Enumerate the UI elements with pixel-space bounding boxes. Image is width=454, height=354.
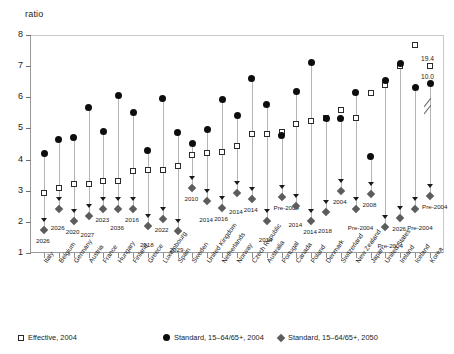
- marker-effective-2004: [115, 178, 121, 184]
- data-stem: [400, 63, 401, 218]
- marker-arrow-down-icon: [71, 209, 77, 213]
- marker-standard-2004: [278, 132, 285, 139]
- point-year-label: 2023: [95, 216, 109, 223]
- marker-standard-2004: [367, 153, 374, 160]
- point-year-label: 2014: [229, 208, 243, 215]
- point-year-label: 2014: [244, 206, 258, 213]
- data-stem: [415, 87, 416, 208]
- marker-arrow-down-icon: [308, 209, 314, 213]
- legend-item[interactable]: Standard, 15–64/65+, 2004: [163, 333, 264, 342]
- marker-effective-2004: [41, 190, 47, 196]
- marker-arrow-down-icon: [264, 209, 270, 213]
- point-year-label: 2018: [318, 227, 332, 234]
- marker-standard-2004: [308, 59, 315, 66]
- value-annotation-label: 10.0: [421, 73, 434, 80]
- data-stem: [252, 79, 253, 199]
- data-stem: [385, 80, 386, 226]
- marker-standard-2004: [234, 112, 241, 119]
- y-tick-label: 1: [7, 247, 23, 257]
- point-year-label: 2014: [303, 228, 317, 235]
- marker-effective-2004: [368, 90, 374, 96]
- marker-effective-2004: [293, 121, 299, 127]
- y-tick-mark: [26, 66, 31, 67]
- data-stem: [178, 132, 179, 231]
- y-tick-mark: [26, 35, 31, 36]
- marker-effective-2004: [353, 115, 359, 121]
- marker-arrow-down-icon: [100, 197, 106, 201]
- y-tick-mark: [26, 191, 31, 192]
- point-year-label: Pre-2004: [348, 224, 373, 231]
- marker-effective-2004: [56, 185, 62, 191]
- y-tick-label: 3: [7, 185, 23, 195]
- plot-area: 12345678 2026202620202027202320362016201…: [30, 35, 444, 253]
- y-tick-label: 6: [7, 91, 23, 101]
- marker-arrow-down-icon: [412, 197, 418, 201]
- marker-effective-2004: [338, 107, 344, 113]
- marker-effective-2004: [234, 143, 240, 149]
- marker-arrow-down-icon: [382, 215, 388, 219]
- marker-arrow-down-icon: [427, 184, 433, 188]
- point-year-label: Pre-2004: [422, 203, 447, 210]
- data-stem: [267, 104, 268, 220]
- marker-arrow-down-icon: [204, 189, 210, 193]
- point-year-label: 2014: [288, 221, 302, 228]
- marker-effective-2004: [175, 163, 181, 169]
- marker-arrow-down-icon: [293, 194, 299, 198]
- y-tick-label: 4: [7, 154, 23, 164]
- data-stem: [296, 92, 297, 206]
- data-stem: [192, 143, 193, 188]
- point-year-label: 2036: [110, 224, 124, 231]
- y-axis-title: ratio: [25, 9, 44, 19]
- marker-arrow-down-icon: [279, 185, 285, 189]
- point-year-label: 2010: [184, 195, 198, 202]
- legend-item-label: Effective, 2004: [28, 333, 77, 342]
- y-tick-mark: [26, 222, 31, 223]
- marker-standard-2004: [219, 96, 226, 103]
- marker-effective-2004: [130, 168, 136, 174]
- chart-page: ratio 12345678 2026202620202027202320362…: [0, 0, 454, 354]
- marker-standard-2004: [115, 92, 122, 99]
- marker-standard-2004: [293, 88, 300, 95]
- point-year-label: 2026: [51, 224, 65, 231]
- marker-standard-2004: [382, 77, 389, 84]
- point-year-label: 2016: [125, 216, 139, 223]
- data-stem: [163, 99, 164, 219]
- y-tick-label: 8: [7, 29, 23, 39]
- y-tick-label: 7: [7, 60, 23, 70]
- marker-effective-2004: [71, 181, 77, 187]
- marker-arrow-down-icon: [130, 197, 136, 201]
- marker-standard-2004: [100, 128, 107, 135]
- marker-effective-2004: [160, 167, 166, 173]
- marker-arrow-down-icon: [175, 219, 181, 223]
- point-year-label: 2016: [214, 215, 228, 222]
- marker-standard-2004: [204, 126, 211, 133]
- marker-effective-2004: [412, 42, 418, 48]
- marker-arrow-down-icon: [115, 197, 121, 201]
- marker-arrow-down-icon: [338, 179, 344, 183]
- y-tick-label: 5: [7, 122, 23, 132]
- legend-item[interactable]: Effective, 2004: [18, 333, 77, 342]
- marker-effective-2004: [189, 152, 195, 158]
- point-year-label: 2008: [363, 201, 377, 208]
- marker-effective-2004: [219, 149, 225, 155]
- legend-item[interactable]: Standard, 15–64/65+, 2050: [278, 333, 378, 342]
- marker-arrow-down-icon: [56, 197, 62, 201]
- data-stem: [311, 62, 312, 221]
- marker-standard-2004: [427, 80, 434, 87]
- marker-arrow-down-icon: [219, 196, 225, 200]
- legend-item-label: Standard, 15–64/65+, 2004: [174, 333, 264, 342]
- marker-arrow-down-icon: [86, 204, 92, 208]
- marker-effective-2004: [204, 150, 210, 156]
- point-year-label: 2026: [36, 237, 50, 244]
- marker-effective-2004: [427, 63, 433, 69]
- marker-arrow-down-icon: [323, 200, 329, 204]
- marker-standard-2004: [189, 140, 196, 147]
- y-tick-mark: [26, 128, 31, 129]
- marker-effective-2004: [100, 178, 106, 184]
- marker-arrow-down-icon: [234, 181, 240, 185]
- marker-arrow-down-icon: [397, 206, 403, 210]
- marker-standard-2004: [130, 109, 137, 116]
- marker-effective-2004: [145, 167, 151, 173]
- y-tick-mark: [26, 160, 31, 161]
- legend-diamond-icon: [277, 333, 285, 341]
